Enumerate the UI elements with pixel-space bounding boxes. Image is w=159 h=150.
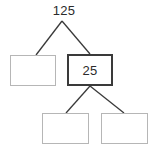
- factor-tree-diagram: 125 25: [0, 0, 159, 150]
- edge-root-to-left-box: [36, 21, 62, 55]
- node-box-bottom-right[interactable]: [101, 113, 148, 144]
- node-box-left[interactable]: [10, 55, 56, 86]
- root-node-value: 125: [44, 4, 84, 18]
- edge-mid-to-bottom-left-box: [66, 86, 90, 113]
- node-box-middle-value: 25: [83, 63, 98, 78]
- edge-root-to-mid-box: [62, 21, 90, 54]
- node-box-middle[interactable]: 25: [67, 54, 113, 86]
- node-box-bottom-left[interactable]: [42, 113, 89, 144]
- edge-mid-to-bottom-right-box: [90, 86, 124, 113]
